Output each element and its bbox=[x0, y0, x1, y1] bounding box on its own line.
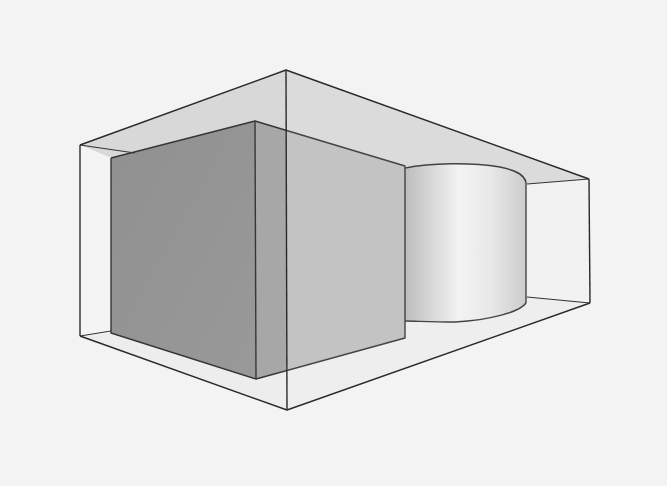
diagram-canvas: Perspective line drawing of a transparen… bbox=[0, 0, 667, 486]
perspective-diagram bbox=[0, 0, 667, 486]
box-right-vertical-edge bbox=[589, 179, 590, 303]
box-front-vertical-edge bbox=[286, 70, 287, 410]
